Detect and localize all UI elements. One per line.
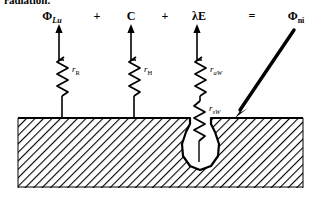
branch-phi-lu xyxy=(55,24,68,118)
term-lambda-e: λE xyxy=(192,9,206,23)
branch-c xyxy=(127,24,140,118)
resistor-r-H-zigzag xyxy=(129,57,140,96)
resistor-r-R-label: rR xyxy=(72,64,81,76)
equation-row: ΦLu + C + λE = Φni xyxy=(42,9,305,25)
term-phi-lu: ΦLu xyxy=(42,9,62,25)
term-c: C xyxy=(127,9,136,23)
op-plus-2: + xyxy=(162,9,169,23)
resistor-r-H-label: rH xyxy=(144,64,153,76)
op-equals: = xyxy=(249,9,256,23)
flux-arrow-phi-ni-shaft xyxy=(240,30,294,110)
surface-hatch-fill xyxy=(18,118,303,188)
op-plus-1: + xyxy=(94,9,101,23)
resistor-r-sW-label: rsW xyxy=(209,103,221,115)
term-phi-ni: Φni xyxy=(288,9,305,25)
resistor-r-R-zigzag xyxy=(57,57,68,96)
leaf-surface xyxy=(18,118,303,188)
figure-canvas: radiation. xyxy=(0,0,321,215)
diagram-svg: ΦLu + C + λE = Φni rR rH raW rsW xyxy=(0,0,321,215)
resistor-r-aW-label: raW xyxy=(210,64,223,76)
flux-arrow-phi-ni xyxy=(235,30,294,118)
resistor-r-aW-zigzag xyxy=(195,57,206,96)
